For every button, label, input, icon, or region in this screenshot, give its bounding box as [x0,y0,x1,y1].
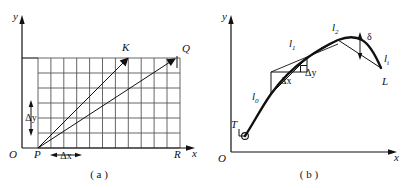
label-l1-sub: 1 [292,44,296,52]
label-l0: l0 [252,90,259,105]
label-L: L [381,75,388,87]
label-l2: l2 [332,21,339,36]
label-li: li [384,52,389,67]
y-axis-label-a: y [12,10,18,22]
label-l2-sub: 2 [335,28,339,36]
delta-y-label-b: Δy [305,67,316,78]
label-li-sub: i [387,59,389,67]
label-O-a: O [9,148,17,160]
y-axis [19,15,24,148]
label-O-b: O [218,152,226,164]
panel-b-svg: δ T L l0 l1 l2 li Δx Δy y x O ( b ) [205,0,409,188]
label-l1: l1 [289,37,296,52]
delta-label: δ [367,31,372,42]
x-axis-label-a: x [191,147,197,159]
panel-b: δ T L l0 l1 l2 li Δx Δy y x O ( b ) [205,0,409,188]
figure-root: Δy Δx O P R K Q y x ( a ) [0,0,409,188]
y-axis-label-b: y [221,10,227,22]
caption-a: ( a ) [90,168,108,181]
label-K: K [121,41,130,53]
x-axis-b [231,149,397,154]
label-T: T [231,118,238,130]
x-axis-label-b: x [393,151,399,163]
x-axis [22,145,195,150]
label-P: P [33,148,41,160]
label-R: R [173,148,181,160]
caption-b: ( b ) [300,168,319,181]
panel-a: Δy Δx O P R K Q y x ( a ) [0,0,205,188]
label-Q: Q [182,42,190,54]
label-l0-sub: 0 [255,97,259,105]
y-axis-b [228,15,233,152]
panel-a-svg: Δy Δx O P R K Q y x ( a ) [0,0,205,188]
delta-y-label-a: Δy [25,112,36,123]
curve-L [245,37,381,136]
delta-x-label-b: Δx [280,75,291,86]
delta-x-label-a: Δx [60,150,71,161]
